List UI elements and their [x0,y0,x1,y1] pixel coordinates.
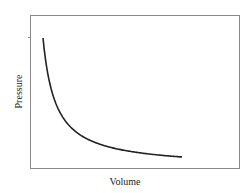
plot-area [0,0,250,193]
data-line [43,38,182,157]
y-axis-label: Pressure [13,72,24,112]
x-axis-label: Volume [0,176,250,187]
plot-frame [31,16,240,169]
